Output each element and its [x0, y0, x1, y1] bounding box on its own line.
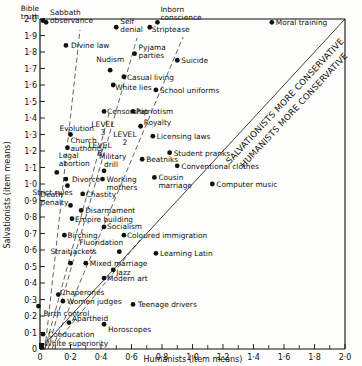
y-tick-label: 0·3: [24, 296, 37, 305]
scatter-chart: LEVEL6LEVEL3LEVEL2 BibletruthSabbathobse…: [0, 0, 362, 366]
point-label: Evolution: [60, 124, 95, 133]
point-marker: [138, 124, 143, 129]
y-axis-title: Salvationists (item means): [3, 141, 12, 248]
point-marker: [175, 58, 180, 63]
y-tick-label: 0·6: [24, 246, 37, 255]
point-marker: [83, 261, 88, 266]
data-point: Learning Latin: [154, 249, 213, 258]
y-tick-label: 1·2: [24, 147, 37, 156]
diagonal-label-salvationists: SALVATIONISTS MORE CONSERVATIVE: [224, 36, 346, 166]
y-tick-label: 2·0: [24, 15, 37, 24]
data-point: Nudism: [96, 55, 124, 72]
data-point: Chastity: [80, 190, 116, 199]
point-label: Straitjackets: [51, 247, 97, 256]
point-label: Suicide: [181, 56, 208, 65]
point-marker: [154, 251, 159, 256]
point-label: Sabbathobservance: [50, 8, 93, 25]
point-marker: [152, 175, 157, 180]
point-marker: [80, 192, 85, 197]
point-marker: [68, 203, 73, 208]
point-label: Inbornconscience: [160, 5, 202, 22]
point-label: Churchauthority: [70, 136, 104, 153]
data-point: Legalabortion: [54, 151, 90, 174]
level-label: LEVEL2: [113, 130, 137, 147]
point-label: Divorce: [72, 175, 101, 184]
data-point: White lies: [111, 83, 152, 92]
point-marker: [121, 74, 126, 79]
point-marker: [60, 299, 65, 304]
point-marker: [68, 261, 73, 266]
point-label: Women judges: [67, 297, 122, 306]
point-marker: [67, 320, 72, 325]
y-tick-label: 1·7: [24, 65, 37, 74]
data-point: Modern art: [102, 274, 148, 283]
y-tick-label: 0·4: [24, 279, 37, 288]
data-point: Coloured immigration: [121, 231, 207, 240]
data-point: Computer music: [210, 180, 277, 189]
point-label: Selfdenial: [120, 17, 143, 34]
data-point: Striptease: [147, 25, 190, 34]
x-tick-label: 2·0: [339, 353, 352, 362]
point-label: Computer music: [216, 180, 277, 189]
y-tick-label: 0·1: [24, 329, 37, 338]
point-marker: [102, 225, 107, 230]
x-tick-label: 1·4: [247, 353, 260, 362]
y-tick-label: 0·2: [24, 312, 37, 321]
x-tick-label: 0: [37, 353, 42, 362]
y-tick-label: 1·3: [24, 131, 37, 140]
data-point: Moral training: [269, 18, 327, 27]
point-marker: [102, 168, 107, 173]
y-tick-label: 1·4: [24, 114, 37, 123]
point-marker: [114, 25, 119, 30]
point-label: Casual living: [127, 73, 174, 82]
data-point: Churchauthority: [65, 136, 105, 153]
data-point: Inbornconscience: [155, 5, 202, 24]
point-marker: [140, 157, 145, 162]
data-point: Women judges: [60, 297, 121, 306]
point-label: Socialism: [107, 222, 142, 231]
y-tick-label: 1·8: [24, 48, 37, 57]
point-label: Student pranks: [174, 149, 231, 158]
data-point: Selfdenial: [114, 17, 143, 34]
y-tick-label: 0·9: [24, 197, 37, 206]
point-label: School uniforms: [160, 86, 220, 95]
data-point: Militarydrill: [99, 152, 127, 173]
point-label: Cousinmarriage: [158, 173, 192, 190]
point-label: Legalabortion: [59, 151, 90, 168]
point-marker: [210, 182, 215, 187]
y-tick-label: 1·0: [24, 180, 37, 189]
y-tick-label: 1·6: [24, 81, 37, 90]
x-tick-label: 0·4: [95, 353, 108, 362]
point-label: White superiority: [45, 339, 109, 348]
point-marker: [111, 267, 116, 272]
point-marker: [64, 177, 69, 182]
data-point: Teenage drivers: [131, 300, 197, 309]
data-point: Socialism: [102, 222, 142, 231]
point-label: Patriotism: [136, 107, 173, 116]
level-label: LEVEL3: [91, 120, 115, 137]
y-tick-label: 0: [32, 345, 37, 354]
x-tick-label: 0·2: [64, 353, 77, 362]
point-marker: [64, 43, 69, 48]
point-marker: [108, 68, 113, 73]
point-marker: [155, 20, 160, 25]
point-marker: [54, 170, 59, 175]
data-point: Pyjamaparties: [132, 43, 166, 60]
y-tick-label: 1·1: [24, 164, 37, 173]
point-marker: [131, 302, 136, 307]
x-tick-label: 0·6: [125, 353, 138, 362]
point-label: Fluoridation: [79, 238, 123, 247]
point-label: Modern art: [107, 274, 148, 283]
point-marker: [102, 322, 107, 327]
point-marker: [269, 20, 274, 25]
data-point: Beatniks: [140, 155, 178, 164]
x-tick-label: 1·8: [308, 353, 321, 362]
point-marker: [102, 109, 107, 114]
point-label: Coloured immigration: [127, 231, 208, 240]
data-point: School uniforms: [154, 86, 220, 95]
point-marker: [131, 109, 136, 114]
point-label: Beatniks: [146, 155, 178, 164]
data-point: Casual living: [121, 73, 174, 82]
x-tick-label: 1·6: [278, 353, 291, 362]
point-marker: [62, 233, 67, 238]
